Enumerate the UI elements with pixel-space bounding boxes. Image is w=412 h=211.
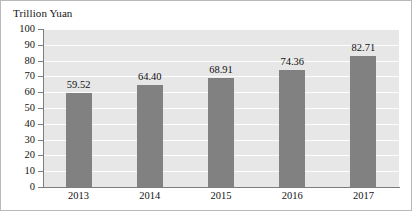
bar-value-label: 82.71 [352, 43, 376, 54]
bar[interactable] [279, 70, 305, 187]
gridline [43, 45, 399, 46]
y-axis-tick-label: 50 [1, 103, 35, 114]
y-axis-tick-label: 30 [1, 135, 35, 146]
x-axis-line [43, 187, 400, 188]
x-axis-tick-label: 2013 [43, 191, 114, 202]
bar[interactable] [208, 78, 234, 187]
bar-value-label: 59.52 [67, 80, 91, 91]
x-axis-tick-label: 2014 [114, 191, 185, 202]
y-axis-tick-mark [38, 155, 43, 156]
y-axis-tick-label: 20 [1, 150, 35, 161]
x-axis-tick-label: 2015 [185, 191, 256, 202]
y-axis-tick-mark [38, 29, 43, 30]
x-axis-tick-label: 2016 [257, 191, 328, 202]
y-axis-tick-label: 0 [1, 182, 35, 193]
bar-value-label: 68.91 [209, 65, 233, 76]
y-axis-tick-label: 90 [1, 40, 35, 51]
y-axis-tick-mark [38, 140, 43, 141]
y-axis-line [43, 29, 44, 188]
bar-value-label: 64.40 [138, 72, 162, 83]
y-axis-tick-label: 40 [1, 119, 35, 130]
y-axis-tick-mark [38, 124, 43, 125]
y-axis-tick-label: 80 [1, 56, 35, 67]
bar[interactable] [350, 56, 376, 187]
bar-value-label: 74.36 [280, 57, 304, 68]
y-axis-tick-mark [38, 171, 43, 172]
y-axis-tick-label: 10 [1, 166, 35, 177]
bar[interactable] [137, 85, 163, 187]
x-axis-tick-label: 2017 [328, 191, 399, 202]
y-axis-tick-label: 70 [1, 71, 35, 82]
y-axis-tick-mark [38, 61, 43, 62]
y-axis-tick-label: 60 [1, 87, 35, 98]
y-axis-tick-label: 100 [1, 24, 35, 35]
chart-title: Trillion Yuan [13, 7, 72, 19]
gridline [43, 61, 399, 62]
y-axis-tick-mark [38, 187, 43, 188]
y-axis-tick-mark [38, 108, 43, 109]
y-axis-tick-mark [38, 45, 43, 46]
y-axis-tick-mark [38, 92, 43, 93]
bar[interactable] [66, 93, 92, 187]
chart-container: Trillion Yuan 1009080706050403020100 201… [0, 0, 412, 211]
y-axis-tick-mark [38, 76, 43, 77]
gridline [43, 29, 399, 30]
